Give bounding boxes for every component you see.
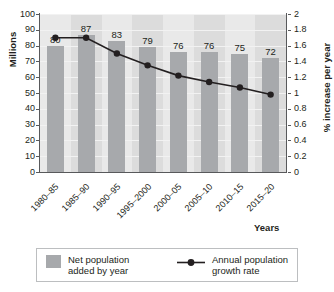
y-axis-right-tick-mark — [288, 14, 291, 15]
bar-value-label: 80 — [41, 34, 69, 45]
bar-value-label: 72 — [257, 46, 285, 57]
bar-value-label: 83 — [103, 29, 131, 40]
y-axis-right-tick-mark — [288, 140, 291, 141]
y-axis-right-tick-label: 0.8 — [294, 104, 320, 113]
y-axis-right-tick-label: 2 — [294, 10, 320, 19]
y-axis-left-tick-mark — [36, 172, 39, 173]
bar-value-label: 87 — [72, 23, 100, 34]
line-data-point — [114, 50, 120, 56]
y-axis-right-tick-label: 1.8 — [294, 25, 320, 34]
y-axis-left-tick-mark — [36, 14, 39, 15]
y-axis-left-tick-label: 40 — [11, 104, 35, 113]
y-axis-left-tick-label: 70 — [11, 57, 35, 66]
y-axis-right-tick-mark — [288, 172, 291, 173]
legend-bar-label-line1: Net population — [68, 254, 129, 265]
y-axis-right-tick-label: 0.6 — [294, 120, 320, 129]
y-axis-right-tick-mark — [288, 156, 291, 157]
y-axis-right-tick-mark — [288, 30, 291, 31]
y-axis-left-tick-mark — [36, 46, 39, 47]
line-data-point — [237, 84, 243, 90]
y-axis-left-tick-mark — [36, 109, 39, 110]
y-axis-left-tick-mark — [36, 140, 39, 141]
y-axis-left-tick-mark — [36, 156, 39, 157]
y-axis-left-tick-label: 20 — [11, 136, 35, 145]
y-axis-left-tick-label: 30 — [11, 120, 35, 129]
legend-bar-label-line2: added by year — [68, 265, 129, 276]
y-axis-right-tick-label: 0.2 — [294, 152, 320, 161]
x-axis-line — [39, 172, 287, 173]
y-axis-left-tick-label: 0 — [11, 168, 35, 177]
y-axis-right-line — [286, 13, 287, 173]
legend-line-label: Annual population growth rate — [212, 254, 288, 276]
x-axis-title: Years — [254, 222, 279, 233]
line-data-point — [144, 62, 150, 68]
legend-line-label-line1: Annual population — [212, 254, 288, 265]
y-axis-right-tick-mark — [288, 46, 291, 47]
y-axis-right-tick-mark — [288, 93, 291, 94]
bar-value-label: 76 — [164, 40, 192, 51]
y-axis-right-tick-label: 1 — [294, 89, 320, 98]
y-axis-right-tick-mark — [288, 125, 291, 126]
y-axis-left-tick-label: 50 — [11, 89, 35, 98]
y-axis-left-tick-mark — [36, 93, 39, 94]
line-series — [40, 14, 286, 172]
legend-item-growth-rate: Annual population growth rate — [177, 254, 288, 276]
y-axis-right-tick-mark — [288, 77, 291, 78]
y-axis-right-tick-label: 1.6 — [294, 41, 320, 50]
y-axis-right-tick-label: 1.2 — [294, 73, 320, 82]
line-data-point — [267, 91, 273, 97]
y-axis-right-tick-label: 1.4 — [294, 57, 320, 66]
y-axis-left-tick-label: 100 — [11, 10, 35, 19]
y-axis-right-tick-label: 0 — [294, 168, 320, 177]
y-axis-left-tick-label: 60 — [11, 73, 35, 82]
y-axis-right-title: % increase per year — [321, 28, 332, 148]
y-axis-right-tick-mark — [288, 61, 291, 62]
legend-line-swatch — [177, 255, 205, 268]
line-data-point — [206, 79, 212, 85]
bar-value-label: 75 — [226, 42, 254, 53]
y-axis-right-tick-label: 0.4 — [294, 136, 320, 145]
y-axis-left-tick-mark — [36, 125, 39, 126]
y-axis-left-tick-label: 10 — [11, 152, 35, 161]
y-axis-left-tick-mark — [36, 77, 39, 78]
y-axis-left-tick-mark — [36, 30, 39, 31]
line-data-point — [83, 35, 89, 41]
legend-line-label-line2: growth rate — [212, 265, 288, 276]
y-axis-left-tick-label: 90 — [11, 25, 35, 34]
y-axis-right-tick-mark — [288, 109, 291, 110]
y-axis-left-tick-label: 80 — [11, 41, 35, 50]
chart-figure: Millions % increase per year Years 80878… — [0, 0, 334, 292]
bar-value-label: 79 — [134, 35, 162, 46]
legend-bar-swatch — [46, 255, 61, 268]
chart-legend: Net population added by year Annual popu… — [36, 248, 298, 282]
bar-value-label: 76 — [195, 40, 223, 51]
line-data-point — [175, 72, 181, 78]
y-axis-left-tick-mark — [36, 61, 39, 62]
legend-bar-label: Net population added by year — [68, 254, 129, 276]
legend-item-net-population: Net population added by year — [46, 254, 129, 276]
